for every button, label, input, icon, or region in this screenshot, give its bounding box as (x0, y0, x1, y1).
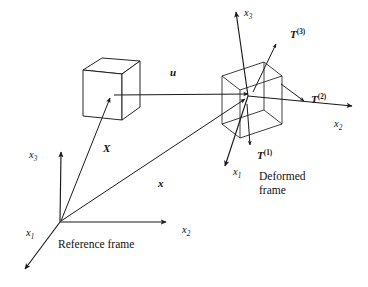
reference-frame-caption: Reference frame (58, 238, 134, 250)
traction-T1-arrow (247, 104, 250, 145)
figure-canvas: x1 x2 x3 x1 x2 x3 X x u T(1) T(2) T(3) (0, 0, 368, 287)
reference-axis-x1-label: x1 (25, 227, 34, 241)
traction-T1-label: T(1) (257, 149, 273, 161)
reference-cube (83, 58, 140, 120)
vector-x-label: x (157, 177, 164, 189)
reference-axis-x2-label: x2 (181, 224, 191, 238)
deformed-axis-x1-label: x1 (232, 166, 241, 180)
deformed-axis-x3 (236, 12, 248, 96)
reference-axis-x3-label: x3 (28, 149, 38, 163)
deformed-cube (222, 62, 282, 138)
deformed-axis-x3-label: x3 (243, 7, 253, 21)
deformed-frame-caption-line2: frame (259, 184, 286, 196)
deformed-axis-x1 (225, 96, 248, 166)
traction-T3-label: T(3) (290, 28, 306, 40)
reference-axis-x3 (60, 152, 61, 222)
vector-X-label: X (102, 142, 111, 154)
deformed-frame-caption-line1: Deformed (259, 170, 306, 182)
traction-T3-arrow (253, 44, 276, 92)
vector-u-label: u (170, 66, 176, 78)
deformed-cube-rear-face (222, 62, 264, 124)
reference-frame-axes (25, 152, 166, 269)
vector-x-arrow (61, 99, 245, 221)
deformed-cube-edge-c (264, 110, 282, 124)
deformed-axis-x2-label: x2 (333, 118, 343, 132)
deformed-cube-edge-d (222, 124, 240, 138)
traction-vectors (247, 44, 304, 145)
traction-T2-arrow (281, 84, 304, 101)
deformed-cube-edge-a (222, 76, 240, 90)
continuum-mechanics-diagram: x1 x2 x3 x1 x2 x3 X x u T(1) T(2) T(3) (0, 0, 368, 287)
